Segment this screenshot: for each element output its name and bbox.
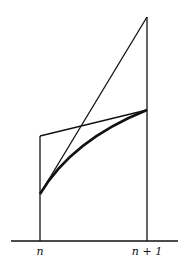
top-segment-line: [40, 110, 147, 136]
tick-label-n: n: [36, 245, 43, 258]
tick-label-n-plus-1: n + 1: [132, 245, 162, 258]
diagram-figure: [0, 0, 188, 262]
tangent-line: [40, 17, 147, 194]
